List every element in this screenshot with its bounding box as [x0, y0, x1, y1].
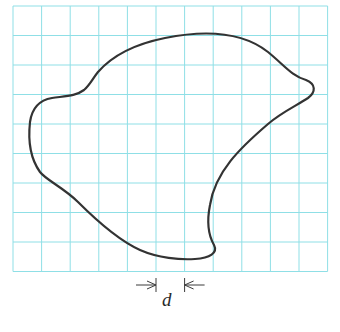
closed-curve: [29, 34, 313, 260]
grid-lines: [13, 6, 328, 272]
grid-figure: [0, 0, 340, 332]
dimension-label-d: d: [162, 290, 172, 309]
